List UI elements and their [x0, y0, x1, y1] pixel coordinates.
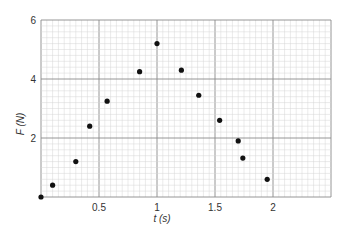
x-tick-label: 0.5: [92, 202, 106, 213]
data-point: [154, 41, 159, 46]
data-point: [240, 155, 245, 160]
x-tick-label: 2: [270, 202, 276, 213]
y-axis-ticks: 246: [30, 15, 36, 144]
data-point: [265, 177, 270, 182]
x-axis-label: t (s): [153, 213, 170, 224]
x-tick-label: 1.5: [208, 202, 222, 213]
y-tick-label: 4: [30, 74, 36, 85]
scatter-chart: 0.511.52 246 t (s) F (N): [0, 0, 345, 233]
data-point: [50, 183, 55, 188]
data-point: [105, 99, 110, 104]
data-point: [196, 93, 201, 98]
data-point: [38, 194, 43, 199]
data-point: [137, 69, 142, 74]
x-tick-label: 1: [154, 202, 160, 213]
x-axis-ticks: 0.511.52: [92, 202, 276, 213]
data-point: [179, 68, 184, 73]
y-tick-label: 6: [30, 15, 36, 26]
data-point: [217, 118, 222, 123]
y-axis-label: F (N): [15, 113, 26, 136]
plot-grid: [41, 20, 331, 197]
data-point: [236, 138, 241, 143]
data-point: [73, 159, 78, 164]
y-tick-label: 2: [30, 133, 36, 144]
data-point: [87, 124, 92, 129]
